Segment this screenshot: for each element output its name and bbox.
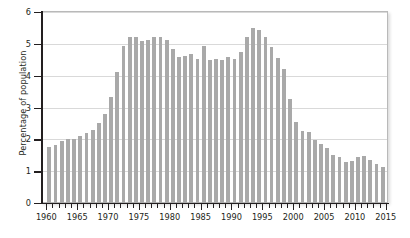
bar	[91, 130, 95, 203]
bar	[152, 37, 156, 203]
x-tick-1983	[188, 204, 189, 208]
x-tick-1973	[127, 204, 128, 208]
bar-chart: Percentage of population 0123456 1960196…	[0, 0, 410, 238]
bar	[202, 46, 206, 203]
x-tick-2007	[336, 204, 337, 208]
x-tick-2004	[318, 204, 319, 208]
y-tick-6	[34, 12, 41, 13]
x-tick-1969	[102, 204, 103, 208]
y-tick-4	[34, 76, 41, 77]
bar	[196, 59, 200, 203]
x-tick-2010	[355, 204, 356, 210]
bar	[165, 40, 169, 203]
x-tick-1984	[194, 204, 195, 208]
bar	[257, 30, 261, 203]
x-tick-label-1970: 1970	[98, 212, 119, 222]
x-tick-label-2015: 2015	[375, 212, 396, 222]
bar	[146, 40, 150, 203]
bar	[54, 145, 58, 203]
x-tick-label-1995: 1995	[252, 212, 273, 222]
y-tick-0	[34, 203, 41, 204]
bar	[276, 58, 280, 203]
bar	[233, 59, 237, 203]
bar	[338, 157, 342, 203]
x-tick-1988	[219, 204, 220, 208]
x-tick-1976	[145, 204, 146, 208]
bar	[325, 148, 329, 203]
bar	[270, 47, 274, 203]
x-tick-1996	[269, 204, 270, 208]
bar	[381, 167, 385, 203]
bar	[264, 37, 268, 203]
x-tick-1975	[139, 204, 140, 210]
bar	[78, 136, 82, 203]
y-tick-label-3: 3	[26, 103, 31, 113]
bar	[189, 54, 193, 203]
x-tick-2014	[380, 204, 381, 208]
x-tick-1982	[182, 204, 183, 208]
x-tick-1963	[65, 204, 66, 208]
x-tick-1978	[157, 204, 158, 208]
x-tick-1965	[77, 204, 78, 210]
x-tick-2003	[312, 204, 313, 208]
bar	[282, 69, 286, 203]
x-tick-label-1975: 1975	[128, 212, 149, 222]
bar	[97, 123, 101, 203]
bar	[319, 144, 323, 203]
x-tick-label-1990: 1990	[221, 212, 242, 222]
x-tick-1970	[108, 204, 109, 210]
x-tick-1980	[170, 204, 171, 210]
x-tick-2000	[293, 204, 294, 210]
x-tick-1974	[133, 204, 134, 208]
x-tick-label-2005: 2005	[314, 212, 335, 222]
bar	[128, 37, 132, 203]
x-tick-2005	[324, 204, 325, 210]
x-tick-label-2000: 2000	[283, 212, 304, 222]
y-tick-5	[34, 44, 41, 45]
x-tick-2002	[306, 204, 307, 208]
y-tick-label-0: 0	[26, 198, 31, 208]
x-tick-1962	[59, 204, 60, 208]
bar	[356, 157, 360, 203]
bar	[214, 59, 218, 203]
x-tick-1987	[213, 204, 214, 208]
x-tick-1966	[83, 204, 84, 208]
bar	[239, 52, 243, 203]
x-tick-1995	[262, 204, 263, 210]
bar	[85, 133, 89, 203]
y-tick-label-5: 5	[26, 39, 31, 49]
bar	[288, 99, 292, 203]
x-tick-label-1965: 1965	[67, 212, 88, 222]
x-tick-2013	[373, 204, 374, 208]
x-tick-2011	[361, 204, 362, 208]
bar	[344, 162, 348, 203]
y-tick-1	[34, 171, 41, 172]
y-tick-label-1: 1	[26, 166, 31, 176]
bar	[60, 141, 64, 203]
x-tick-1968	[96, 204, 97, 208]
x-tick-1971	[114, 204, 115, 208]
bar	[220, 60, 224, 203]
y-tick-label-2: 2	[26, 134, 31, 144]
bar	[47, 147, 51, 203]
bar	[313, 140, 317, 203]
x-tick-1997	[275, 204, 276, 208]
x-tick-1991	[238, 204, 239, 208]
y-tick-3	[34, 108, 41, 109]
bar	[245, 37, 249, 203]
bar	[301, 131, 305, 203]
bar	[122, 46, 126, 203]
bar	[294, 122, 298, 203]
x-tick-1986	[207, 204, 208, 208]
bar	[226, 57, 230, 203]
x-tick-2008	[343, 204, 344, 208]
y-tick-label-6: 6	[26, 7, 31, 17]
x-tick-label-2010: 2010	[344, 212, 365, 222]
x-tick-2006	[330, 204, 331, 208]
x-tick-1993	[250, 204, 251, 208]
bar-series	[42, 12, 387, 203]
bar	[134, 37, 138, 203]
bar	[331, 155, 335, 203]
bar	[368, 160, 372, 203]
x-tick-2009	[349, 204, 350, 208]
